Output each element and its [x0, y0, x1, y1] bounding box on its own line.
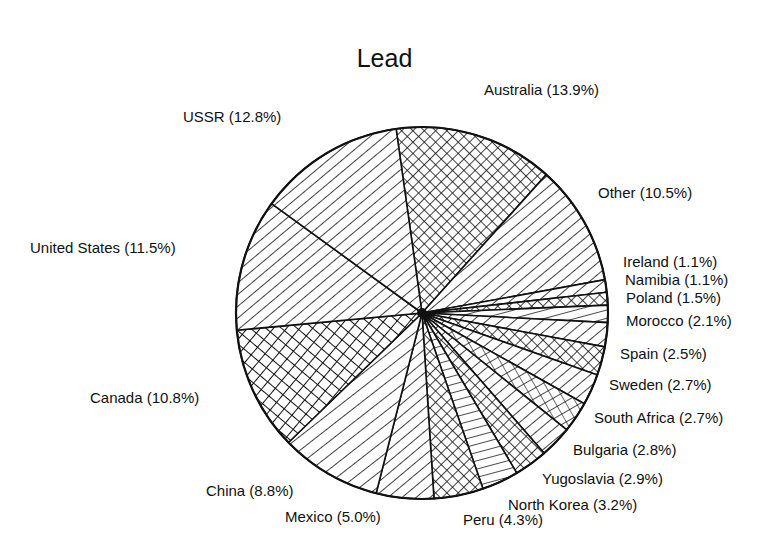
- slice-label-north-korea: North Korea (3.2%): [508, 497, 637, 512]
- slice-label-south-africa: South Africa (2.7%): [594, 410, 723, 425]
- slice-label-namibia: Namibia (1.1%): [625, 272, 728, 287]
- slice-label-ussr: USSR (12.8%): [183, 109, 281, 124]
- slice-label-united-states: United States (11.5%): [30, 240, 176, 255]
- slice-label-poland: Poland (1.5%): [626, 290, 721, 305]
- slice-label-canada: Canada (10.8%): [90, 390, 199, 405]
- pie-center: [417, 308, 427, 318]
- slice-label-bulgaria: Bulgaria (2.8%): [573, 442, 676, 457]
- slice-label-yugoslavia: Yugoslavia (2.9%): [542, 471, 663, 486]
- slice-label-china: China (8.8%): [206, 483, 294, 498]
- slice-label-mexico: Mexico (5.0%): [285, 509, 381, 524]
- slice-label-ireland: Ireland (1.1%): [623, 254, 717, 269]
- slice-label-sweden: Sweden (2.7%): [609, 377, 712, 392]
- slice-label-australia: Australia (13.9%): [484, 82, 599, 97]
- slice-label-morocco: Morocco (2.1%): [626, 313, 732, 328]
- slice-label-peru: Peru (4.3%): [463, 512, 543, 527]
- slice-label-other: Other (10.5%): [598, 185, 692, 200]
- slice-label-spain: Spain (2.5%): [620, 346, 707, 361]
